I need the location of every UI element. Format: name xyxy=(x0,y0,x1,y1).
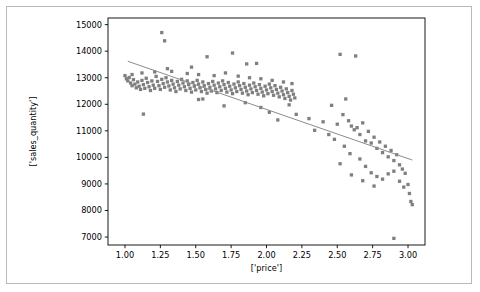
data-point xyxy=(232,82,235,85)
data-point xyxy=(347,119,350,122)
data-point xyxy=(248,84,251,87)
data-point xyxy=(341,113,344,116)
y-tick-label: 14000 xyxy=(76,46,102,56)
data-point xyxy=(157,84,160,87)
data-point xyxy=(170,70,173,73)
data-point xyxy=(145,77,148,80)
data-point xyxy=(153,87,156,90)
data-point xyxy=(237,80,240,83)
y-tick-label: 7000 xyxy=(81,232,102,242)
data-point xyxy=(338,162,341,165)
data-point xyxy=(227,81,230,84)
data-point xyxy=(268,82,271,85)
data-point xyxy=(237,74,240,77)
data-point xyxy=(276,118,279,121)
data-point xyxy=(343,145,346,148)
y-tick-label: 12000 xyxy=(76,99,102,109)
data-point xyxy=(146,81,149,84)
data-point xyxy=(367,130,370,133)
data-point xyxy=(130,84,133,87)
data-point xyxy=(229,88,232,91)
data-point xyxy=(224,87,227,90)
data-point xyxy=(255,89,258,92)
data-point xyxy=(160,78,163,81)
data-point xyxy=(355,126,358,129)
data-point xyxy=(149,89,152,92)
data-point xyxy=(167,84,170,87)
data-point xyxy=(184,89,187,92)
data-point xyxy=(249,87,252,90)
data-point xyxy=(200,90,203,93)
data-point xyxy=(140,79,143,82)
data-point xyxy=(271,79,274,82)
data-point xyxy=(401,167,404,170)
data-point xyxy=(290,89,293,92)
data-point xyxy=(142,83,145,86)
data-point xyxy=(160,31,163,34)
data-point xyxy=(228,85,231,88)
data-point xyxy=(142,112,145,115)
data-point xyxy=(266,92,269,95)
data-point xyxy=(370,171,373,174)
data-point xyxy=(392,237,395,240)
x-tick-label: 2.50 xyxy=(328,250,346,260)
data-point xyxy=(133,82,136,85)
plot-area: 1.001.251.501.752.002.252.502.753.007000… xyxy=(0,0,480,292)
data-point xyxy=(252,81,255,84)
data-point xyxy=(358,133,361,136)
data-point xyxy=(248,76,251,79)
data-point xyxy=(261,90,264,93)
data-point xyxy=(231,92,234,95)
data-point xyxy=(404,172,407,175)
figure-container: 1.001.251.501.752.002.252.502.753.007000… xyxy=(0,0,480,292)
data-point xyxy=(336,123,339,126)
data-point xyxy=(222,104,225,107)
data-point xyxy=(370,141,373,144)
data-point xyxy=(392,170,395,173)
x-tick-label: 1.50 xyxy=(187,250,205,260)
data-point xyxy=(203,84,206,87)
data-point xyxy=(283,97,286,100)
data-point xyxy=(398,180,401,183)
data-point xyxy=(246,93,249,96)
data-point xyxy=(408,192,411,195)
data-point xyxy=(290,82,293,85)
data-point xyxy=(150,79,153,82)
data-point xyxy=(275,88,278,91)
data-point xyxy=(269,86,272,89)
y-axis-label: ['sales_quantity'] xyxy=(28,97,38,167)
data-point xyxy=(139,88,142,91)
data-point xyxy=(282,93,285,96)
data-point xyxy=(387,155,390,158)
data-point xyxy=(245,62,248,65)
data-point xyxy=(272,94,275,97)
data-point xyxy=(163,86,166,89)
data-point xyxy=(344,97,347,100)
data-point xyxy=(196,79,199,82)
data-point xyxy=(375,175,378,178)
data-point xyxy=(221,79,224,82)
data-point xyxy=(166,80,169,83)
data-point xyxy=(123,74,126,77)
data-point xyxy=(231,51,234,54)
data-point xyxy=(135,86,138,89)
data-point xyxy=(244,86,247,89)
data-point xyxy=(225,90,228,93)
x-tick-label: 1.00 xyxy=(116,250,134,260)
data-point xyxy=(234,86,237,89)
axis-layer xyxy=(105,18,425,248)
data-point xyxy=(154,75,157,78)
data-point xyxy=(361,121,364,124)
data-point xyxy=(218,85,221,88)
data-point xyxy=(205,55,208,58)
data-point xyxy=(140,71,143,74)
data-point xyxy=(282,80,285,83)
data-point xyxy=(211,80,214,83)
data-point xyxy=(170,79,173,82)
data-point xyxy=(381,151,384,154)
data-point xyxy=(259,77,262,80)
data-point xyxy=(293,96,296,99)
data-point xyxy=(171,82,174,85)
data-point xyxy=(186,72,189,75)
data-point xyxy=(313,129,316,132)
